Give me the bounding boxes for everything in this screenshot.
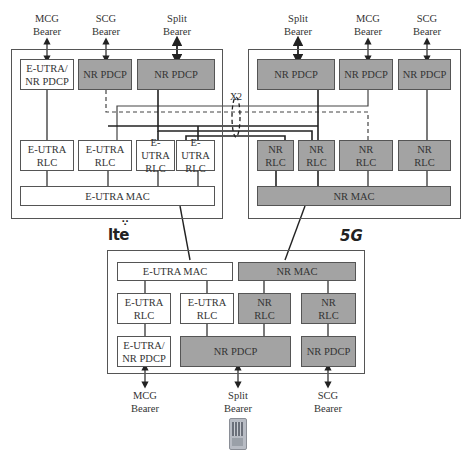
gnb-mcg-nr-pdcp: NR PDCP <box>339 59 393 90</box>
gnb-scg-bearer-label: SCGBearer <box>397 12 457 38</box>
signal-icon: ∵ <box>122 218 128 228</box>
ue-nr-rlc-1: NRRLC <box>238 293 291 324</box>
gnb-split-nr-pdcp: NR PDCP <box>257 59 335 90</box>
gnb-nr-rlc-2: NRRLC <box>298 140 335 171</box>
enb-eutra-nr-pdcp: E-UTRA/NR PDCP <box>20 59 74 90</box>
lte-logo: lte∵ <box>108 226 129 244</box>
enb-mcg-bearer-label: MCGBearer <box>17 12 77 38</box>
gnb-nr-rlc-4: NRRLC <box>398 140 451 171</box>
enb-split-bearer-label: SplitBearer <box>147 12 207 38</box>
gnb-split-bearer-label: SplitBearer <box>268 12 328 38</box>
enb-split-nr-pdcp: NR PDCP <box>137 59 215 90</box>
ue-mcg-bearer-label: MCGBearer <box>115 389 175 415</box>
ue-split-bearer-label: SplitBearer <box>208 389 268 415</box>
enb-scg-bearer-label: SCGBearer <box>76 12 136 38</box>
ue-eutra-nr-pdcp: E-UTRA/NR PDCP <box>117 336 171 367</box>
ue-scg-bearer-label: SCGBearer <box>298 389 358 415</box>
enb-eutra-mac: E-UTRA MAC <box>20 186 215 206</box>
gnb-nr-rlc-1: NRRLC <box>257 140 294 171</box>
ue-split-nr-pdcp: NR PDCP <box>180 336 291 367</box>
enb-eutra-rlc-3: E-UTRARLC <box>136 140 175 171</box>
ue-nr-rlc-2: NRRLC <box>301 293 356 324</box>
ue-eutra-mac: E-UTRA MAC <box>117 262 233 281</box>
gnb-nr-rlc-3: NRRLC <box>339 140 393 171</box>
enb-eutra-rlc-2: E-UTRARLC <box>78 140 132 171</box>
enb-eutra-rlc-4: E-UTRARLC <box>176 140 215 171</box>
gnb-nr-mac: NR MAC <box>257 186 451 206</box>
ue-eutra-rlc-1: E-UTRARLC <box>117 293 171 324</box>
phone-icon <box>229 418 247 450</box>
ue-scg-nr-pdcp: NR PDCP <box>301 336 356 367</box>
ue-nr-mac: NR MAC <box>238 262 356 281</box>
gnb-scg-nr-pdcp: NR PDCP <box>398 59 451 90</box>
ue-eutra-rlc-2: E-UTRARLC <box>180 293 234 324</box>
enb-scg-nr-pdcp: NR PDCP <box>78 59 132 90</box>
enb-eutra-rlc-1: E-UTRARLC <box>20 140 74 171</box>
gnb-mcg-bearer-label: MCGBearer <box>338 12 398 38</box>
5g-logo: 5G <box>340 227 363 245</box>
